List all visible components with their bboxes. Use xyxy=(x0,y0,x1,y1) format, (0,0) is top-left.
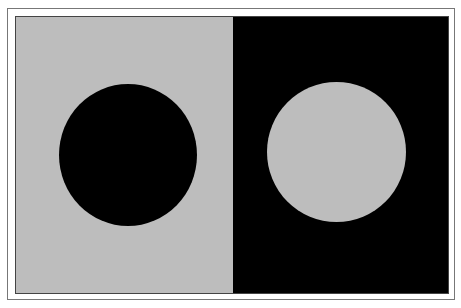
figure-panel xyxy=(15,16,449,294)
black-disc xyxy=(59,84,197,226)
gray-disc xyxy=(267,82,406,222)
